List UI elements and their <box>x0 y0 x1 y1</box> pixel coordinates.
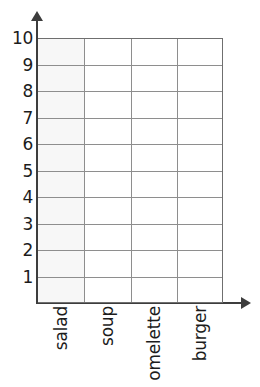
y-tick-label-5: 5 <box>3 163 33 180</box>
gridline-vertical <box>177 38 178 303</box>
plot-area <box>38 38 223 303</box>
y-tick-label-2: 2 <box>3 242 33 259</box>
bar-chart-template: 10987654321 saladsoupomeletteburger <box>0 0 260 387</box>
x-tick-label-omelette: omelette <box>131 306 177 386</box>
grid-border-bottom <box>38 302 223 303</box>
x-tick-label-soup: soup <box>84 306 130 386</box>
x-tick-label-burger: burger <box>177 306 223 386</box>
y-tick-label-6: 6 <box>3 136 33 153</box>
y-tick-label-10: 10 <box>3 30 33 47</box>
y-tick-label-4: 4 <box>3 189 33 206</box>
x-tick-label-text: soup <box>99 306 116 346</box>
y-tick-label-9: 9 <box>3 57 33 74</box>
x-axis-category-labels: saladsoupomeletteburger <box>38 306 223 387</box>
grid-border-right <box>222 38 223 303</box>
x-tick-label-text: burger <box>191 306 208 361</box>
y-tick-label-3: 3 <box>3 216 33 233</box>
y-tick-label-7: 7 <box>3 110 33 127</box>
x-tick-label-text: salad <box>53 306 70 350</box>
x-tick-label-text: omelette <box>145 306 162 381</box>
y-tick-label-1: 1 <box>3 269 33 286</box>
arrow-right-icon <box>241 297 251 309</box>
gridline-vertical <box>131 38 132 303</box>
grid-border-top <box>38 38 223 39</box>
gridline-vertical <box>84 38 85 303</box>
x-tick-label-salad: salad <box>38 306 84 386</box>
y-tick-label-8: 8 <box>3 83 33 100</box>
y-axis-tick-labels: 10987654321 <box>0 0 33 387</box>
